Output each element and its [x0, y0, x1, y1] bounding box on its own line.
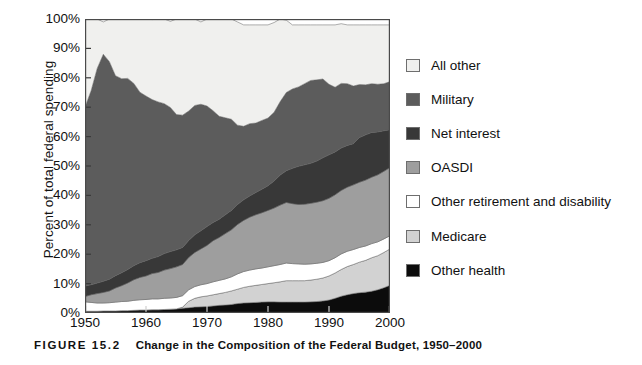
legend-label: Other health: [431, 263, 505, 278]
legend-label: OASDI: [431, 160, 473, 175]
y-tick-label: 90%: [53, 41, 80, 55]
x-tick-label: 1990: [314, 316, 344, 330]
x-tick-label: 1970: [192, 316, 222, 330]
y-tick-label: 50%: [53, 159, 80, 173]
chart-plot-area: [85, 19, 390, 313]
y-tick-label: 70%: [53, 100, 80, 114]
legend-label: Medicare: [431, 229, 487, 244]
y-tick-label: 40%: [53, 188, 80, 202]
y-axis-tick-labels: 0%10%20%30%40%50%60%70%80%90%100%: [18, 0, 80, 365]
legend-swatch-icon: [406, 195, 420, 208]
y-tick-label: 10%: [53, 277, 80, 291]
legend-item: All other: [406, 48, 638, 82]
x-tick-label: 2000: [375, 316, 405, 330]
legend-swatch-icon: [406, 127, 420, 140]
y-tick-label: 30%: [53, 218, 80, 232]
legend-item: Net interest: [406, 116, 638, 150]
legend-label: Military: [431, 92, 474, 107]
legend-item: Other retirement and disability: [406, 185, 638, 219]
legend-swatch-icon: [406, 264, 420, 277]
y-tick-label: 60%: [53, 130, 80, 144]
chart-legend: All otherMilitaryNet interestOASDIOther …: [406, 48, 638, 287]
legend-label: Net interest: [431, 126, 500, 141]
stacked-area-chart: [85, 19, 390, 313]
y-tick-label: 80%: [53, 71, 80, 85]
x-tick-label: 1960: [131, 316, 161, 330]
figure-caption-text: Change in the Composition of the Federal…: [136, 339, 482, 351]
figure-caption: FIGURE 15.2Change in the Composition of …: [34, 339, 634, 351]
legend-swatch-icon: [406, 161, 420, 174]
x-axis-tick-labels: 195019601970198019902000: [0, 316, 642, 336]
figure-number: FIGURE 15.2: [34, 339, 121, 351]
legend-label: Other retirement and disability: [431, 194, 611, 209]
x-tick-label: 1950: [70, 316, 100, 330]
y-tick-label: 20%: [53, 247, 80, 261]
legend-label: All other: [431, 58, 481, 73]
legend-item: OASDI: [406, 151, 638, 185]
legend-swatch-icon: [406, 93, 420, 106]
legend-swatch-icon: [406, 59, 420, 72]
figure-container: Percent of total federal spending 0%10%2…: [0, 0, 642, 365]
legend-item: Medicare: [406, 219, 638, 253]
x-tick-label: 1980: [253, 316, 283, 330]
legend-item: Other health: [406, 253, 638, 287]
legend-swatch-icon: [406, 230, 420, 243]
legend-item: Military: [406, 82, 638, 116]
y-tick-label: 100%: [45, 12, 80, 26]
